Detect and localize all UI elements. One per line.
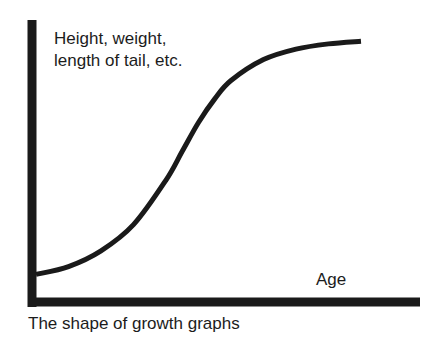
y-axis-label-line-1: Height, weight,	[54, 29, 166, 49]
y-axis-label-line-2: length of tail, etc.	[54, 51, 183, 71]
growth-curve	[36, 41, 361, 274]
figure-caption: The shape of growth graphs	[28, 314, 240, 334]
x-axis-label: Age	[316, 270, 346, 290]
